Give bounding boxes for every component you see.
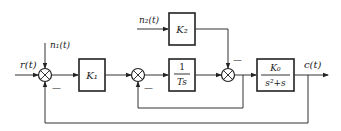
block-diagram: r(t) n₁(t) — K₁ — 1 Ts n₂(t) K₂ — [0, 0, 341, 131]
k1-label: K₁ [85, 70, 97, 81]
summing-junction-3 [222, 69, 235, 82]
sum1-minus-sign: — [52, 83, 61, 93]
output-label: c(t) [304, 59, 322, 70]
integrator-numerator: 1 [179, 62, 185, 72]
summing-junction-1 [39, 69, 52, 82]
integrator-denominator: Ts [177, 77, 187, 87]
k2-label: K₂ [175, 24, 187, 35]
block-integrator: 1 Ts [169, 59, 195, 91]
plant-numerator: K₀ [269, 63, 281, 73]
block-plant: K₀ s²+s [257, 59, 294, 91]
input-label: r(t) [20, 59, 37, 70]
plant-denominator: s²+s [265, 78, 286, 88]
summing-junction-2 [132, 69, 145, 82]
k2-to-sum3 [195, 29, 228, 68]
sum3-minus-sign: — [233, 55, 242, 65]
block-k2: K₂ [169, 13, 195, 45]
block-k1: K₁ [79, 59, 105, 91]
disturbance-2-label: n₂(t) [139, 15, 160, 25]
sum2-minus-sign: — [144, 83, 153, 93]
disturbance-1-label: n₁(t) [50, 40, 71, 50]
